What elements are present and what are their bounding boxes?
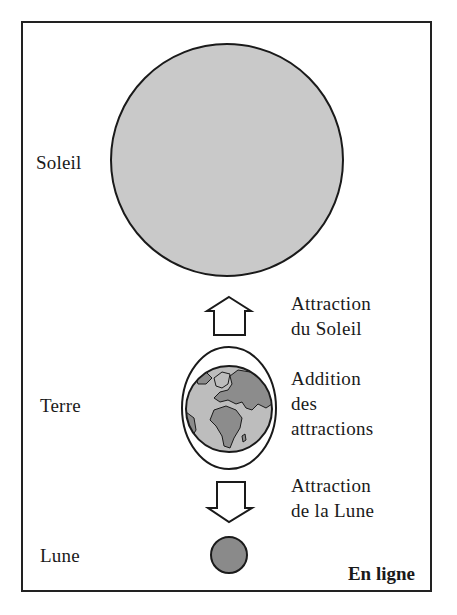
- sun-label: Soleil: [36, 150, 82, 176]
- sum-line2: des: [291, 391, 373, 416]
- moon-label: Lune: [40, 543, 80, 569]
- moon-attraction-annotation: Attraction de la Lune: [291, 473, 374, 523]
- sun-attraction-line2: du Soleil: [291, 316, 371, 341]
- moon-attraction-line2: de la Lune: [291, 498, 374, 523]
- earth-globe-icon: [186, 366, 272, 452]
- sum-line3: attractions: [291, 416, 373, 441]
- configuration-label: En ligne: [348, 563, 415, 585]
- arrow-up-icon: [207, 297, 251, 335]
- sun-attraction-line1: Attraction: [291, 291, 371, 316]
- sum-annotation: Addition des attractions: [291, 366, 373, 441]
- diagram-artwork: [0, 0, 457, 615]
- earth-label: Terre: [40, 393, 81, 419]
- moon-attraction-line1: Attraction: [291, 473, 374, 498]
- sun-attraction-annotation: Attraction du Soleil: [291, 291, 371, 341]
- moon-circle: [211, 537, 247, 573]
- arrow-down-icon: [208, 482, 252, 522]
- sun-circle: [111, 44, 343, 276]
- sum-line1: Addition: [291, 366, 373, 391]
